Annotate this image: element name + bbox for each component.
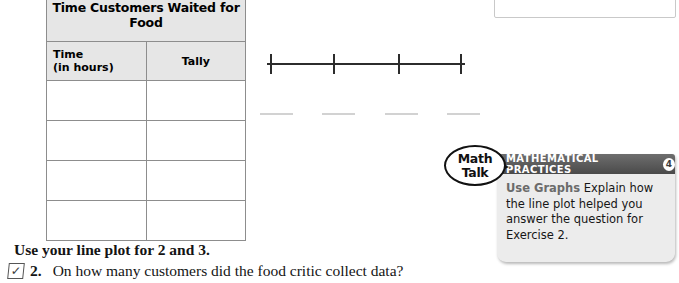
practice-number-badge: 4 <box>663 158 675 171</box>
mathematical-practices-callout: MATHEMATICAL PRACTICES 4 Use Graphs Expl… <box>497 154 675 262</box>
cell-tally[interactable] <box>146 161 246 201</box>
line-plot-tick <box>460 54 462 74</box>
cell-time[interactable] <box>47 81 147 121</box>
line-plot-tick <box>398 54 400 74</box>
column-header-time-line2: (in hours) <box>53 61 114 74</box>
math-talk-bubble: Math Talk <box>444 145 506 186</box>
table-title: Time Customers Waited for Food <box>47 0 246 42</box>
mathematical-practices-label: MATHEMATICAL PRACTICES <box>506 154 657 175</box>
table-title-row: Time Customers Waited for Food <box>47 0 246 42</box>
table-header-row: Time (in hours) Tally <box>47 42 246 81</box>
line-plot-axis <box>267 63 465 65</box>
mathematical-practices-lead: Use Graphs <box>506 181 580 195</box>
cell-tally[interactable] <box>146 81 246 121</box>
line-plot-label-blank[interactable] <box>260 113 293 115</box>
math-talk-line1: Math <box>446 152 504 166</box>
math-talk-line2: Talk <box>446 166 504 180</box>
table-row[interactable] <box>47 161 246 201</box>
line-plot-label-blank[interactable] <box>322 113 355 115</box>
question-number: 2. <box>30 262 42 280</box>
mathematical-practices-header: MATHEMATICAL PRACTICES 4 <box>497 154 675 174</box>
line-plot-label-blank[interactable] <box>385 113 418 115</box>
table-row[interactable] <box>47 121 246 161</box>
cell-tally[interactable] <box>146 201 246 241</box>
column-header-time-line1: Time <box>53 48 83 61</box>
cell-time[interactable] <box>47 121 147 161</box>
checkmark-icon: ✓ <box>7 263 25 279</box>
cell-time[interactable] <box>47 201 147 241</box>
blank-line-plot[interactable] <box>260 46 475 126</box>
question-row: ✓ 2. On how many customers did the food … <box>8 262 403 280</box>
cell-time[interactable] <box>47 161 147 201</box>
column-header-time: Time (in hours) <box>47 42 147 81</box>
table-row[interactable] <box>47 201 246 241</box>
mathematical-practices-body: Use Graphs Explain how the line plot hel… <box>497 174 675 243</box>
table-row[interactable] <box>47 81 246 121</box>
line-plot-label-blank[interactable] <box>447 113 480 115</box>
column-header-tally: Tally <box>146 42 246 81</box>
line-plot-tick <box>333 54 335 74</box>
question-text: On how many customers did the food criti… <box>48 262 404 280</box>
line-plot-tick <box>270 54 272 74</box>
partial-box-top-right <box>494 0 676 18</box>
instruction-text: Use your line plot for 2 and 3. <box>14 241 210 259</box>
tally-table: Time Customers Waited for Food Time (in … <box>46 0 246 241</box>
cell-tally[interactable] <box>146 121 246 161</box>
